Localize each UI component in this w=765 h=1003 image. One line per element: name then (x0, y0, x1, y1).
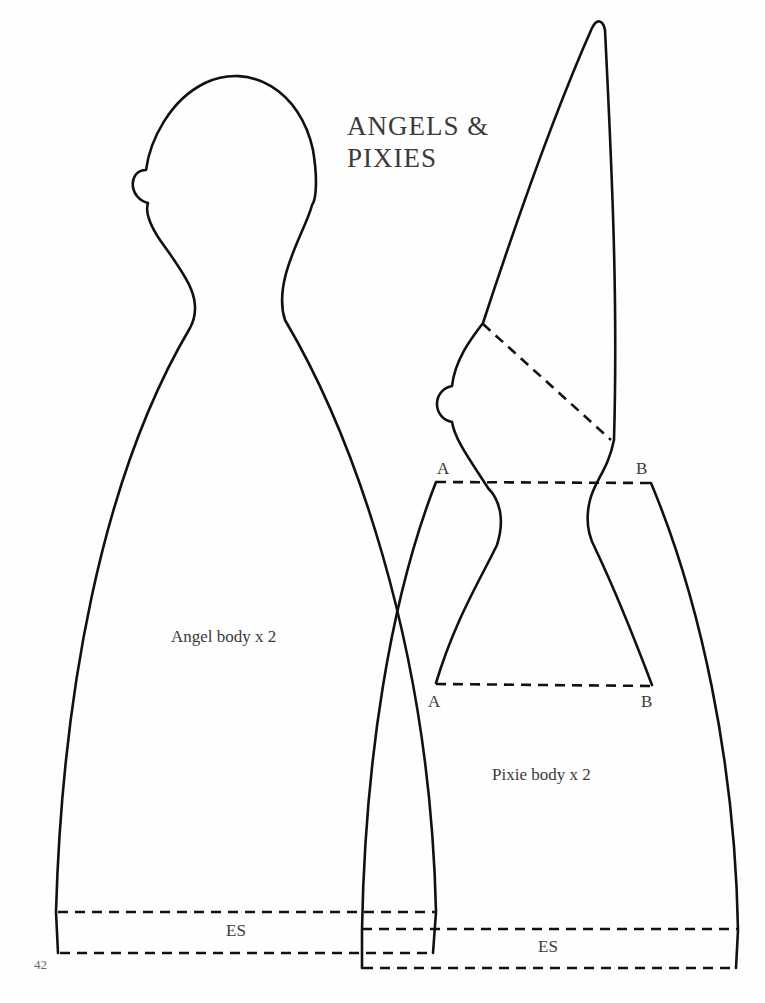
marker-b-bottom: B (641, 692, 652, 712)
page-title-line-2: PIXIES (347, 142, 489, 174)
page-title-line-1: ANGELS & (347, 110, 489, 142)
marker-b-top: B (636, 459, 647, 479)
marker-a-bottom: A (428, 692, 440, 712)
pixie-body-pattern (362, 482, 738, 968)
pixie-hem-label: ES (538, 937, 558, 957)
pixie-top-line-ab (436, 482, 651, 483)
pixie-body-label: Pixie body x 2 (492, 765, 591, 785)
angel-hem-label: ES (226, 921, 246, 941)
page-number: 42 (34, 957, 47, 973)
page-title: ANGELS & PIXIES (347, 110, 489, 174)
angel-body-pattern (56, 76, 436, 953)
pattern-page: ANGELS & PIXIES Angel body x 2 ES Pixie … (0, 0, 765, 1003)
pixie-base-line-ab (436, 684, 652, 686)
angel-body-label: Angel body x 2 (171, 627, 276, 647)
marker-a-top: A (437, 459, 449, 479)
pixie-hat-seam-line (483, 324, 611, 440)
